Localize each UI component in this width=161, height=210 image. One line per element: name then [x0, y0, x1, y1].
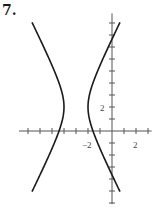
- y-tick-label-pos2: 2: [100, 103, 105, 113]
- x-tick-label-neg2: −2: [82, 140, 92, 150]
- hyperbola-plot: −2 2 2: [0, 0, 161, 210]
- left-branch: [32, 22, 64, 191]
- x-tick-label-pos2: 2: [133, 140, 138, 150]
- hyperbola-curves: [32, 22, 120, 191]
